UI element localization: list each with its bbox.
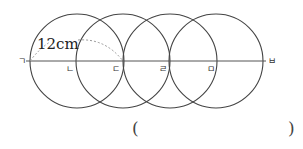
point-label-giyeok: ㄱ bbox=[18, 57, 26, 66]
point-label-digeut: ㄷ bbox=[112, 65, 120, 74]
point-label-mieum: ㅁ bbox=[207, 65, 215, 74]
point-label-bieup: ㅂ bbox=[268, 57, 276, 66]
answer-blank[interactable] bbox=[145, 120, 285, 140]
answer-open-paren: ( bbox=[132, 120, 139, 137]
point-label-nieun: ㄴ bbox=[66, 65, 74, 74]
point-label-rieul: ㄹ bbox=[159, 65, 167, 74]
diameter-arc-dashed bbox=[78, 40, 123, 61]
measure-label: 12cm bbox=[37, 37, 79, 52]
answer-close-paren: ) bbox=[288, 120, 295, 137]
